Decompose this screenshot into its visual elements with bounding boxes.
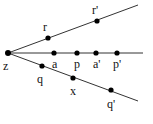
label-p: p — [74, 57, 80, 71]
label-a_prime: a' — [93, 57, 101, 71]
points — [5, 18, 120, 92]
point-p — [74, 50, 79, 55]
label-a: a — [52, 57, 58, 71]
point-r_prime — [94, 18, 99, 23]
label-x: x — [70, 84, 76, 98]
label-q_prime: q' — [107, 97, 115, 111]
label-q: q — [37, 72, 43, 86]
point-z — [5, 50, 11, 56]
labels: zrr'apa'p'qxq' — [3, 3, 121, 111]
label-r: r — [43, 20, 47, 34]
point-p_prime — [114, 50, 119, 55]
label-z: z — [3, 59, 8, 73]
point-q_prime — [108, 87, 113, 92]
ray-upper — [8, 5, 138, 53]
point-x — [70, 75, 75, 80]
point-r — [45, 35, 50, 40]
point-a — [51, 50, 56, 55]
point-q — [39, 63, 44, 68]
label-p_prime: p' — [113, 57, 121, 71]
label-r_prime: r' — [92, 3, 98, 17]
ray-diagram: zrr'apa'p'qxq' — [0, 0, 153, 124]
point-a_prime — [93, 50, 98, 55]
